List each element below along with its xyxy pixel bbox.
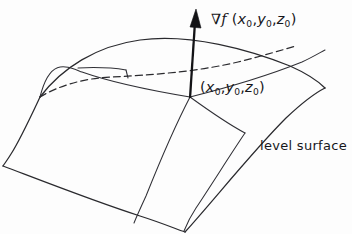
gradient-close-paren: ) [291,11,297,27]
gradient-function: f [221,11,227,27]
gradient-arrow-shaft [190,22,195,98]
crest-segment [78,68,126,70]
point-y-sub: 0 [234,87,240,97]
point-y: y [225,79,234,95]
gradient-x-sub: 0 [246,19,252,29]
grid-curve-left [134,97,190,223]
point-z-sub: 0 [253,87,259,97]
gradient-z-sub: 0 [285,19,291,29]
surface-bottom-edge [3,166,185,232]
grid-curve-right-lower [184,133,245,231]
figure-canvas: ∇f (x0,y0,z0) (x0,y0,z0) level surface [0,0,352,234]
gradient-arrow-head [190,9,201,28]
point-label: (x0,y0,z0) [200,80,265,95]
gradient-y: y [257,11,266,27]
point-z: z [245,79,253,95]
point-x-sub: 0 [215,87,221,97]
gradient-y-sub: 0 [266,19,272,29]
gradient-label: ∇f (x0,y0,z0) [211,12,296,27]
level-surface-label: level surface [260,139,347,152]
grid-curve-upper-left [40,67,190,97]
grid-curve-right [190,97,245,133]
gradient-z: z [277,11,285,27]
point-close-paren: ) [259,79,265,95]
surface-right-edge [185,88,325,232]
level-surface-drawing [0,0,352,234]
point-x: x [206,79,215,95]
surface-left-edge [3,97,40,166]
nabla-icon: ∇ [211,11,221,27]
